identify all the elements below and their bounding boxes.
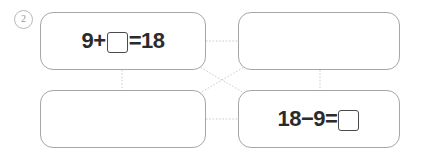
worksheet-canvas: 2 9+ =18 18−9= [0,0,423,160]
equation-card-bottom-right[interactable]: 18−9= [238,90,400,148]
equation-card-top-left[interactable]: 9+ =18 [40,12,206,70]
equation-text: 18−9= [278,106,361,132]
answer-blank-input[interactable] [107,32,128,53]
equation-text: 9+ =18 [82,28,165,54]
answer-blank-input[interactable] [338,110,359,131]
equation-card-top-right[interactable] [238,12,400,70]
equation-card-bottom-left[interactable] [40,90,206,148]
connector-diagonal-up [198,66,246,94]
item-number-badge: 2 [14,10,33,29]
equation-suffix: =18 [129,28,165,54]
equation-prefix: 18−9= [278,106,338,132]
connector-diagonal-down [198,66,246,94]
equation-prefix: 9+ [82,28,106,54]
